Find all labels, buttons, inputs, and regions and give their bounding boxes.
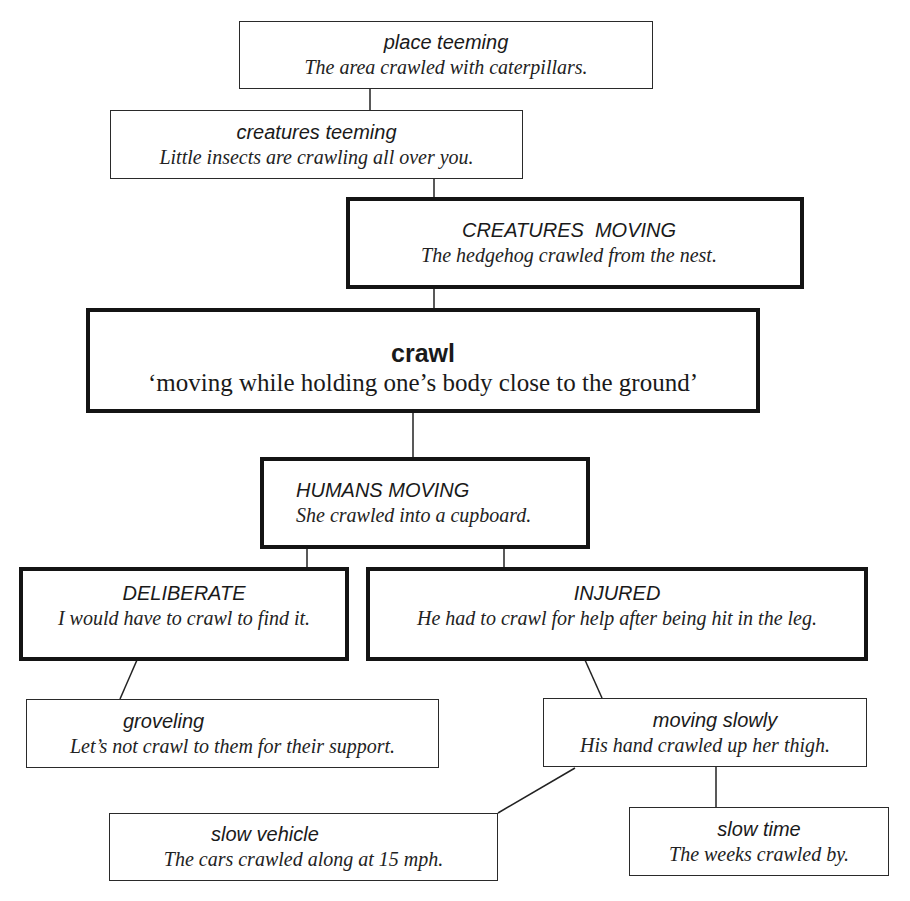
node-slow-time: slow time The weeks crawled by. <box>629 807 889 876</box>
node-deliberate: DELIBERATE I would have to crawl to find… <box>19 567 349 661</box>
root-gloss: ‘moving while holding one’s body close t… <box>90 368 756 398</box>
node-label: place teeming <box>240 30 652 54</box>
edge-injured-to-moving-slowly <box>585 660 602 698</box>
node-groveling: groveling Let’s not crawl to them for th… <box>26 699 439 768</box>
node-example: The hedgehog crawled from the nest. <box>338 242 800 268</box>
node-example: His hand crawled up her thigh. <box>544 732 866 758</box>
node-label: DELIBERATE <box>23 581 345 605</box>
node-label: groveling <box>27 709 438 733</box>
node-creatures-teeming: creatures teeming Little insects are cra… <box>110 110 523 179</box>
node-injured: INJURED He had to crawl for help after b… <box>366 567 868 661</box>
node-label: HUMANS MOVING <box>264 478 586 502</box>
edge-deliberate-to-groveling <box>120 660 137 699</box>
node-label: slow time <box>630 817 888 841</box>
node-example: The cars crawled along at 15 mph. <box>110 846 497 872</box>
node-example: He had to crawl for help after being hit… <box>370 605 864 631</box>
node-label: CREATURES MOVING <box>338 218 800 242</box>
node-example: She crawled into a cupboard. <box>264 502 586 528</box>
node-slow-vehicle: slow vehicle The cars crawled along at 1… <box>109 813 498 881</box>
node-label: INJURED <box>370 581 864 605</box>
node-root-crawl: crawl ‘moving while holding one’s body c… <box>86 308 760 413</box>
root-word: crawl <box>90 338 756 368</box>
node-moving-slowly: moving slowly His hand crawled up her th… <box>543 698 867 767</box>
node-label: slow vehicle <box>110 822 497 846</box>
node-label: creatures teeming <box>111 120 522 144</box>
node-creatures-moving: CREATURES MOVING The hedgehog crawled fr… <box>346 197 804 289</box>
node-humans-moving: HUMANS MOVING She crawled into a cupboar… <box>260 457 590 549</box>
node-example: Let’s not crawl to them for their suppor… <box>27 733 438 759</box>
node-label: moving slowly <box>544 708 866 732</box>
node-place-teeming: place teeming The area crawled with cate… <box>239 21 653 89</box>
node-example: The weeks crawled by. <box>630 841 888 867</box>
edge-moving-slowly-to-slow-vehicle <box>498 768 575 813</box>
node-example: I would have to crawl to find it. <box>23 605 345 631</box>
node-example: The area crawled with caterpillars. <box>240 54 652 80</box>
node-example: Little insects are crawling all over you… <box>111 144 522 170</box>
